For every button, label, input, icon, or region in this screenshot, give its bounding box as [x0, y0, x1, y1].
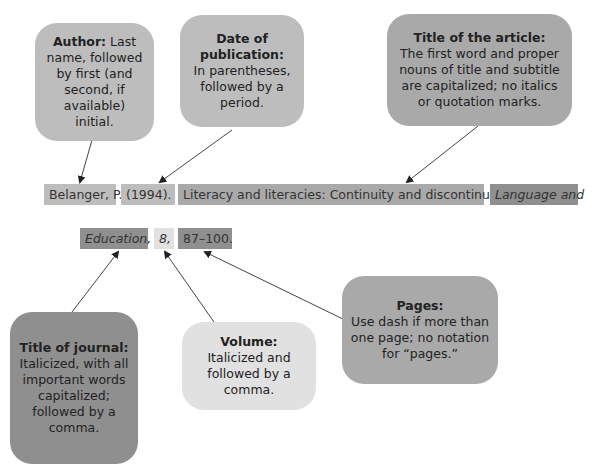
arrow-article-title: [407, 126, 478, 182]
citation-author: Belanger, P.: [44, 184, 116, 205]
callout-pages-heading: Pages:: [396, 298, 443, 313]
callout-journal-title-heading: Title of journal:: [20, 340, 129, 355]
callout-author-heading: Author:: [53, 34, 106, 49]
callout-journal-title-body: Italicized, with all important words cap…: [20, 356, 129, 435]
arrow-date: [160, 130, 232, 182]
callout-pages-body: Use dash if more than one page; no notat…: [351, 314, 489, 361]
callout-article-title-heading: Title of the article:: [413, 30, 545, 45]
citation-year: (1994).: [121, 184, 175, 205]
citation-article-title: Literacy and literacies: Continuity and …: [178, 184, 484, 205]
callout-volume: Volume: Italicized and followed by a com…: [182, 322, 316, 410]
callout-journal-title: Title of journal: Italicized, with all i…: [10, 312, 138, 464]
callout-article-title: Title of the article: The first word and…: [387, 14, 572, 126]
citation-journal-part1: Language and: [490, 184, 578, 205]
arrow-pages: [205, 252, 345, 320]
callout-author: Author: Last name, followed by first (an…: [35, 23, 154, 141]
callout-pages: Pages: Use dash if more than one page; n…: [342, 276, 498, 384]
arrow-volume: [165, 252, 214, 322]
arrow-journal: [72, 252, 118, 312]
callout-date: Date of publication: In parentheses, fol…: [180, 15, 304, 127]
callout-article-title-body: The first word and proper nouns of title…: [399, 46, 560, 109]
callout-volume-body: Italicized and followed by a comma.: [207, 350, 290, 397]
callout-date-heading: Date of publication:: [200, 31, 284, 62]
citation-journal-part2: Education,: [80, 228, 148, 249]
arrow-author: [80, 140, 92, 182]
citation-volume: 8,: [154, 228, 174, 249]
citation-pages: 87–100.: [178, 228, 232, 249]
callout-volume-heading: Volume:: [220, 334, 277, 349]
callout-date-body: In parentheses, followed by a period.: [194, 63, 291, 110]
